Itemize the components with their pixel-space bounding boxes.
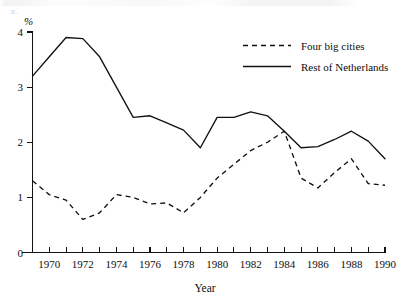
y-tick-label: 1 <box>18 191 24 203</box>
x-axis-title: Year <box>194 282 215 294</box>
y-tick-label: 2 <box>18 136 24 148</box>
x-tick-label: 1990 <box>374 258 397 270</box>
y-tick-label: 3 <box>18 81 24 93</box>
x-tick-label: 1986 <box>307 258 330 270</box>
legend-label-rest-of-netherlands: Rest of Netherlands <box>301 61 388 73</box>
y-axis-tick-labels: 01234 <box>18 26 24 259</box>
y-tick-label: 4 <box>18 26 24 38</box>
series-line-four-big-cities <box>33 131 386 219</box>
chart-figure: a. 01234 1970197219741976197819801982198… <box>0 0 404 305</box>
x-tick-label: 1984 <box>273 258 296 270</box>
y-axis-ticks <box>27 32 33 253</box>
y-axis-unit-label: % <box>24 15 33 27</box>
x-axis-tick-labels: 1970197219741976197819801982198419861988… <box>38 258 396 270</box>
x-tick-label: 1982 <box>240 258 262 270</box>
line-chart-plot: 01234 1970197219741976197819801982198419… <box>0 0 404 305</box>
x-tick-label: 1980 <box>206 258 229 270</box>
legend-label-four-big-cities: Four big cities <box>301 40 365 52</box>
legend: Four big cities Rest of Netherlands <box>243 40 388 73</box>
x-tick-label: 1976 <box>139 258 162 270</box>
x-tick-label: 1988 <box>340 258 363 270</box>
x-axis: 1970197219741976197819801982198419861988… <box>22 247 397 270</box>
series-line-rest-of-netherlands <box>33 38 386 159</box>
x-axis-ticks <box>33 247 386 253</box>
x-tick-label: 1972 <box>72 258 94 270</box>
x-tick-label: 1970 <box>38 258 61 270</box>
x-tick-label: 1978 <box>173 258 196 270</box>
x-tick-label: 1974 <box>105 258 128 270</box>
y-axis: 01234 <box>18 26 33 259</box>
